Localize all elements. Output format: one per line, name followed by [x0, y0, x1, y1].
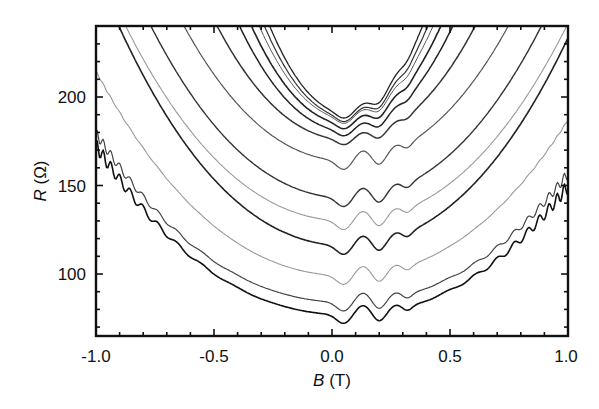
- x-axis-label: B (T): [313, 371, 351, 390]
- y-tick-label-150: 150: [58, 177, 86, 196]
- magnetoresistance-chart: 200 150 100 -1.0 -0.5 0.0 0.5 1.0 B (T) …: [0, 0, 599, 409]
- axis-ticks: [96, 26, 568, 336]
- y-tick-label-100: 100: [58, 265, 86, 284]
- data-series-curve-10: [96, 0, 568, 254]
- data-series-curve-4: [96, 0, 568, 129]
- data-series-curve-3: [96, 0, 568, 123]
- x-axis-var: B: [313, 371, 324, 390]
- x-tick-label-neg05: -0.5: [199, 347, 228, 366]
- data-series-curve-13: [96, 141, 568, 324]
- x-tick-label-neg1: -1.0: [81, 347, 110, 366]
- y-axis-unit: (Ω): [31, 160, 50, 189]
- data-series-curve-11: [96, 71, 568, 285]
- data-curves: [96, 0, 568, 323]
- x-tick-label-05: 0.5: [438, 347, 462, 366]
- x-tick-label-1: 1.0: [554, 347, 578, 366]
- data-series-curve-2: [96, 0, 568, 122]
- x-tick-label-0: 0.0: [320, 347, 344, 366]
- plot-frame: [96, 26, 568, 336]
- y-axis-label: R (Ω): [31, 160, 50, 201]
- y-axis-var: R: [31, 189, 50, 201]
- y-tick-label-200: 200: [58, 88, 86, 107]
- x-axis-unit: (T): [324, 371, 350, 390]
